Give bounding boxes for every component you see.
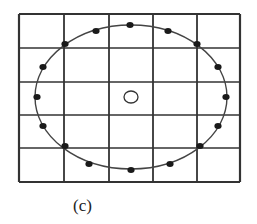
sample-point bbox=[196, 143, 203, 149]
sample-point bbox=[126, 22, 133, 28]
sample-point bbox=[33, 94, 40, 100]
sample-point bbox=[193, 41, 200, 47]
center-marker bbox=[124, 91, 138, 103]
grid-figure bbox=[0, 0, 257, 224]
sample-point bbox=[85, 161, 92, 167]
sample-point bbox=[92, 28, 99, 34]
sample-point bbox=[39, 64, 46, 70]
sample-point bbox=[214, 123, 221, 129]
sample-point bbox=[166, 161, 173, 167]
sample-point bbox=[61, 143, 68, 149]
sample-point bbox=[214, 64, 221, 70]
sample-point bbox=[39, 123, 46, 129]
sample-point bbox=[61, 41, 68, 47]
figure-caption: (c) bbox=[73, 196, 92, 216]
sample-point bbox=[127, 167, 134, 173]
sample-point bbox=[222, 94, 229, 100]
sample-point bbox=[164, 28, 171, 34]
